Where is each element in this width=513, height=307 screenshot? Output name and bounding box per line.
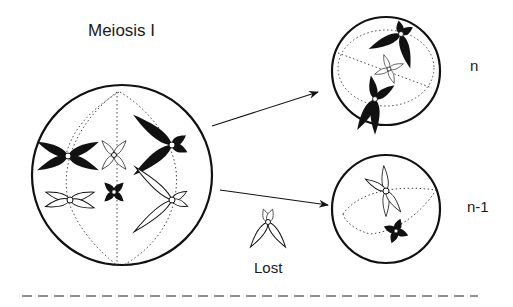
chromosome-solid-large: [35, 138, 100, 175]
diagram-title: Meiosis I: [88, 21, 155, 41]
label-n: n: [470, 57, 478, 74]
parent-cell: [32, 85, 212, 266]
chromosome-hollow-small: [374, 54, 404, 84]
label-n-minus-1: n-1: [467, 198, 489, 215]
chromosome-solid-asymmetric: [367, 20, 415, 70]
label-lost: Lost: [254, 259, 282, 276]
chromosome-hollow-large: [364, 165, 403, 216]
arrow-to-n-cell: [212, 92, 318, 126]
chromosome-hollow-small: [100, 139, 128, 171]
chromosome-solid-small: [102, 180, 126, 204]
chromosome-hollow-asymmetric: [132, 164, 189, 234]
daughter-cell-n: [332, 17, 440, 135]
meiosis-diagram: Meiosis I n n-1 Lost: [0, 0, 513, 307]
chromosome-hollow-large: [44, 189, 95, 211]
spindle-fibers: [66, 92, 177, 266]
arrow-to-n-minus-1-cell: [220, 190, 328, 205]
daughter-cell-n-minus-1: [332, 155, 440, 263]
lost-chromosome: [248, 208, 289, 249]
